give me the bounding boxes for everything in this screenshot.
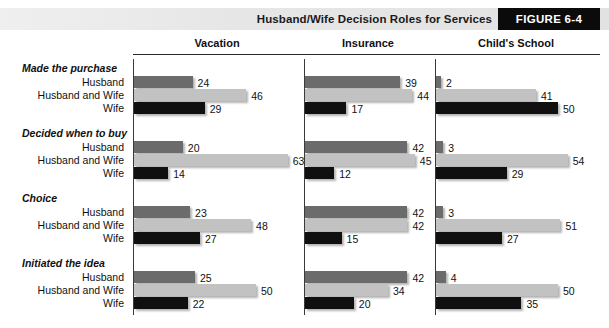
bar-value-label: 42 (412, 142, 424, 154)
bar-value-label: 15 (347, 233, 359, 245)
bar-value-label: 39 (405, 77, 417, 89)
bar-value-label: 63 (293, 155, 305, 167)
bar-husband-and-wife (436, 154, 568, 166)
bar-value-label: 2 (446, 77, 452, 89)
bar-husband-and-wife (305, 284, 388, 296)
bar-value-label: 42 (412, 207, 424, 219)
bar-value-label: 45 (420, 155, 432, 167)
row-label-husband-and-wife: Husband and Wife (0, 154, 128, 166)
row-label-husband: Husband (0, 206, 128, 218)
bar-wife (436, 102, 558, 114)
bar-husband (305, 141, 407, 153)
row-label-husband-and-wife: Husband and Wife (0, 89, 128, 101)
bar-value-label: 50 (563, 285, 575, 297)
row-label-wife: Wife (0, 232, 128, 244)
bar-value-label: 20 (359, 298, 371, 310)
bar-wife (134, 102, 205, 114)
group-title: Initiated the idea (0, 257, 128, 270)
bar-value-label: 17 (351, 103, 363, 115)
bar-wife (436, 167, 507, 179)
bar-value-label: 4 (451, 272, 457, 284)
bar-husband-and-wife (436, 284, 558, 296)
bar-value-label: 23 (195, 207, 207, 219)
bar-value-label: 20 (188, 142, 200, 154)
bar-husband-and-wife (436, 89, 536, 101)
row-label-husband-and-wife: Husband and Wife (0, 219, 128, 231)
bar-husband (134, 271, 195, 283)
bar-wife (436, 297, 521, 309)
bar-value-label: 41 (541, 90, 553, 102)
bar-husband (134, 141, 183, 153)
bar-value-label: 29 (210, 103, 222, 115)
bar-husband (436, 206, 443, 218)
bar-husband (305, 271, 407, 283)
bar-value-label: 3 (448, 207, 454, 219)
bar-husband (305, 206, 407, 218)
bar-husband-and-wife (305, 154, 415, 166)
bar-value-label: 46 (251, 90, 263, 102)
bar-wife (305, 167, 334, 179)
bar-value-label: 12 (339, 168, 351, 180)
bar-value-label: 50 (261, 285, 273, 297)
bar-wife (436, 232, 502, 244)
group-title: Choice (0, 192, 128, 205)
bar-value-label: 42 (412, 272, 424, 284)
chart-plot-area: Made the purchaseHusbandHusband and Wife… (0, 0, 609, 328)
bar-value-label: 51 (565, 220, 577, 232)
bar-value-label: 44 (417, 90, 429, 102)
row-label-wife: Wife (0, 167, 128, 179)
bar-value-label: 27 (205, 233, 217, 245)
bar-husband-and-wife (436, 219, 560, 231)
bar-value-label: 48 (256, 220, 268, 232)
bar-husband (436, 271, 446, 283)
bar-value-label: 3 (448, 142, 454, 154)
row-label-husband: Husband (0, 271, 128, 283)
bar-wife (134, 167, 168, 179)
bar-wife (134, 232, 200, 244)
bar-value-label: 29 (512, 168, 524, 180)
bar-husband-and-wife (305, 219, 407, 231)
bar-value-label: 54 (573, 155, 585, 167)
bar-value-label: 24 (198, 77, 210, 89)
bar-wife (305, 297, 354, 309)
bar-value-label: 25 (200, 272, 212, 284)
row-label-husband: Husband (0, 141, 128, 153)
bar-value-label: 27 (507, 233, 519, 245)
row-label-husband: Husband (0, 76, 128, 88)
bar-wife (305, 232, 342, 244)
bar-husband-and-wife (134, 89, 246, 101)
bar-wife (305, 102, 346, 114)
bar-husband (134, 206, 190, 218)
bar-husband (436, 76, 441, 88)
bar-husband (436, 141, 443, 153)
group-title: Decided when to buy (0, 127, 128, 140)
row-label-wife: Wife (0, 297, 128, 309)
group-title: Made the purchase (0, 62, 128, 75)
bar-value-label: 50 (563, 103, 575, 115)
bar-husband-and-wife (134, 284, 256, 296)
row-label-wife: Wife (0, 102, 128, 114)
bar-value-label: 42 (412, 220, 424, 232)
bar-husband-and-wife (134, 154, 288, 166)
bar-value-label: 22 (193, 298, 205, 310)
bar-husband-and-wife (134, 219, 251, 231)
row-label-husband-and-wife: Husband and Wife (0, 284, 128, 296)
bar-husband (134, 76, 193, 88)
bar-husband-and-wife (305, 89, 412, 101)
bar-wife (134, 297, 188, 309)
bar-value-label: 35 (526, 298, 538, 310)
bar-husband (305, 76, 400, 88)
bar-value-label: 34 (393, 285, 405, 297)
bar-value-label: 14 (173, 168, 185, 180)
